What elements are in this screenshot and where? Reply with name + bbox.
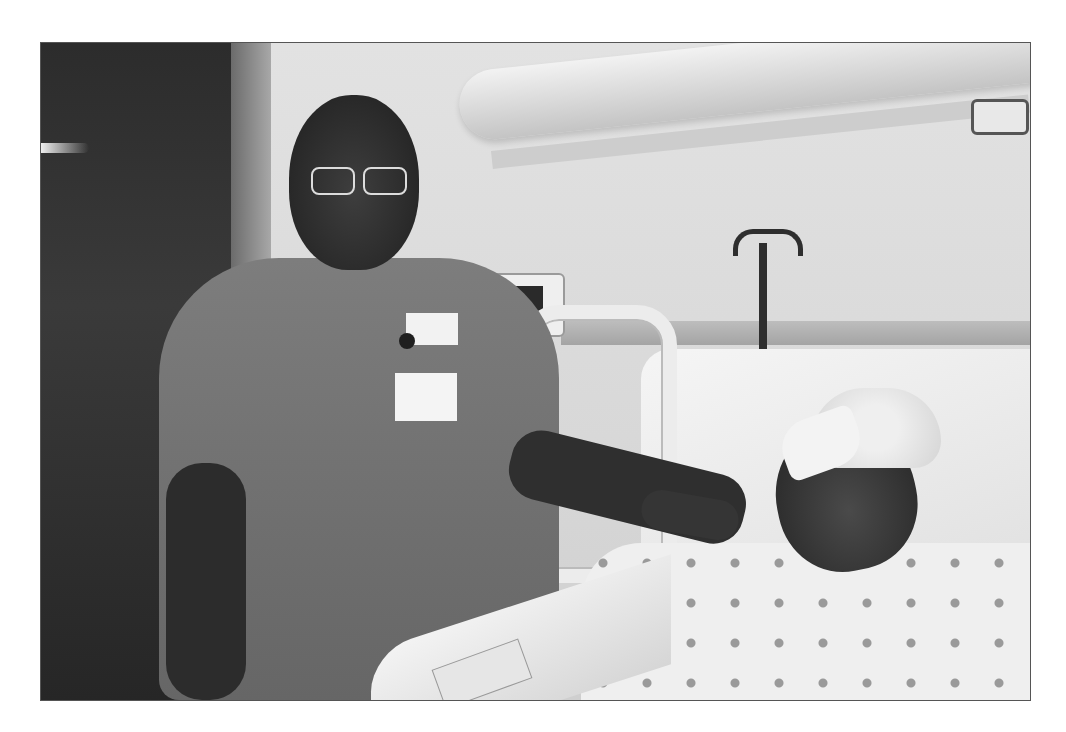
photograph <box>40 42 1031 701</box>
nurse-left-arm <box>166 463 246 700</box>
id-badge <box>395 373 457 421</box>
badge-reel <box>399 333 415 349</box>
iv-pole-hooks <box>733 229 803 256</box>
curtain-hook <box>971 99 1029 135</box>
glasses-icon <box>363 167 407 195</box>
hallway-light <box>41 143 89 153</box>
glasses-icon <box>311 167 355 195</box>
